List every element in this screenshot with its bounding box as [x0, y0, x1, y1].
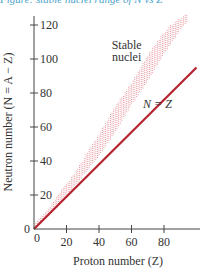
- x-tick-label: 60: [126, 235, 138, 249]
- x-tick-label: 40: [93, 235, 105, 249]
- y-axis-label: Neutron number (N = A − Z): [1, 53, 15, 192]
- x-tick-label: 80: [158, 235, 170, 249]
- n-equals-z-line: [34, 68, 197, 230]
- y-tick-label: 120: [40, 18, 58, 32]
- x-tick-label: 20: [61, 235, 73, 249]
- y-tick-label: 40: [40, 154, 52, 168]
- stable-nuclei-band: [34, 15, 188, 230]
- y-tick-label: 20: [40, 188, 52, 202]
- y-tick-label: 80: [40, 86, 52, 100]
- x-tick-label: 0: [34, 231, 40, 245]
- chart: 020406080100120 020406080 Proton number …: [0, 0, 207, 275]
- y-tick-label: 60: [40, 120, 52, 134]
- annotation-nuclei: nuclei: [112, 50, 142, 64]
- y-tick-label: 100: [40, 52, 58, 66]
- x-axis-label: Proton number (Z): [73, 254, 163, 268]
- y-tick-label: 0: [24, 222, 30, 236]
- y-ticks: 020406080100120: [24, 18, 58, 236]
- annotation-n-equals-z: N = Z: [142, 97, 172, 111]
